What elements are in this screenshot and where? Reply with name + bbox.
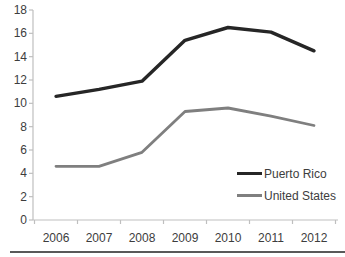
- puerto-rico-line-swatch: [237, 172, 262, 175]
- x-axis-tick-label: 2006: [43, 231, 70, 245]
- series-line-puerto-rico: [56, 28, 314, 97]
- plot-area: 0246810121416182006200720082009201020112…: [0, 0, 345, 257]
- y-axis-tick-label: 6: [20, 143, 27, 157]
- y-axis-tick-label: 2: [20, 190, 27, 204]
- series-line-united-states: [56, 108, 314, 166]
- chart-legend: Puerto Rico United States: [237, 167, 336, 202]
- y-axis-tick-label: 0: [20, 213, 27, 227]
- legend-label-united-states: United States: [264, 189, 336, 203]
- united-states-line-swatch: [237, 194, 262, 197]
- y-axis-tick-label: 18: [14, 3, 28, 17]
- legend-item-puerto-rico: Puerto Rico: [237, 167, 336, 180]
- legend-label-puerto-rico: Puerto Rico: [264, 167, 327, 181]
- x-axis-tick-label: 2010: [215, 231, 242, 245]
- legend-item-united-states: United States: [237, 189, 336, 202]
- x-axis-tick-label: 2008: [129, 231, 156, 245]
- x-axis-tick-label: 2009: [172, 231, 199, 245]
- y-axis-tick-label: 16: [14, 26, 28, 40]
- y-axis-tick-label: 12: [14, 73, 28, 87]
- y-axis-tick-label: 4: [20, 166, 27, 180]
- y-axis-tick-label: 8: [20, 120, 27, 134]
- unemployment-line-chart: 0246810121416182006200720082009201020112…: [0, 0, 345, 257]
- x-axis-tick-label: 2012: [301, 231, 328, 245]
- y-axis-tick-label: 14: [14, 50, 28, 64]
- x-axis-tick-label: 2007: [86, 231, 113, 245]
- x-axis-tick-label: 2011: [258, 231, 284, 245]
- y-axis-tick-label: 10: [14, 96, 28, 110]
- bottom-divider: [10, 251, 345, 253]
